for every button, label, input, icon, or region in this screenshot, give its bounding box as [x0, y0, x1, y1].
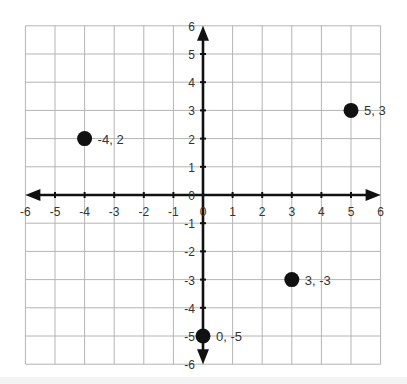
y-axis-up-arrow-icon	[197, 26, 209, 41]
y-tick-label: 6	[188, 20, 195, 34]
point-label: 5, 3	[364, 103, 386, 118]
y-axis-down-arrow-icon	[197, 349, 209, 364]
data-point: 0, -5	[196, 329, 243, 345]
x-tick-label: -4	[79, 205, 90, 219]
x-tick-label: -1	[168, 205, 179, 219]
y-tick-label: 1	[188, 161, 195, 175]
x-tick-label: 6	[377, 205, 384, 219]
axes	[25, 26, 380, 364]
y-tick-label: -6	[184, 358, 195, 372]
coordinate-plane: -6-5-4-3-2-10123456 6543210-1-2-3-4-5-6 …	[0, 0, 407, 384]
point-marker-icon	[77, 131, 92, 146]
x-tick-label: -6	[20, 205, 31, 219]
y-tick-label: 5	[188, 48, 195, 62]
x-tick-label: 1	[229, 205, 236, 219]
x-tick-label: 5	[348, 205, 355, 219]
y-tick-label: 3	[188, 104, 195, 118]
y-tick-label: -2	[184, 245, 195, 259]
point-label: 0, -5	[216, 329, 242, 344]
x-axis-left-arrow-icon	[25, 189, 40, 201]
x-tick-label: 2	[259, 205, 266, 219]
x-tick-label: -5	[50, 205, 61, 219]
point-marker-icon	[344, 103, 359, 118]
y-tick-label: 4	[188, 76, 195, 90]
bottom-strip	[0, 377, 407, 384]
x-tick-label: -3	[109, 205, 120, 219]
y-tick-label: -4	[184, 302, 195, 316]
data-point: -4, 2	[77, 131, 124, 147]
data-point: 5, 3	[344, 103, 386, 119]
point-label: -4, 2	[98, 132, 124, 147]
x-tick-label: 4	[318, 205, 325, 219]
point-label: 3, -3	[305, 273, 331, 288]
x-tick-label: 0	[200, 205, 207, 219]
y-tick-label: -5	[184, 330, 195, 344]
y-tick-label: -1	[184, 217, 195, 231]
x-axis-right-arrow-icon	[366, 189, 381, 201]
y-tick-label: 0	[188, 189, 195, 203]
y-tick-label: 2	[188, 133, 195, 147]
point-marker-icon	[284, 272, 299, 287]
x-tick-label: -2	[138, 205, 149, 219]
y-tick-label: -3	[184, 274, 195, 288]
x-tick-labels: -6-5-4-3-2-10123456	[20, 205, 384, 219]
x-tick-label: 3	[288, 205, 295, 219]
data-point: 3, -3	[284, 272, 331, 288]
point-marker-icon	[196, 329, 211, 344]
